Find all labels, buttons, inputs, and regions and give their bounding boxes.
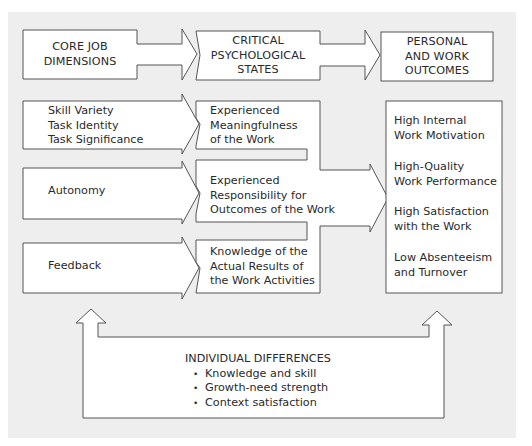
dimension-skill-task: Skill Variety Task Identity Task Signifi… (48, 104, 143, 148)
state-line: Knowledge of the (210, 245, 315, 260)
outcome-line: High Satisfaction (394, 205, 489, 220)
outcome-satisfaction: High Satisfaction with the Work (394, 205, 489, 234)
header-personal-work-outcomes: PERSONAL AND WORK OUTCOMES (381, 35, 493, 79)
outcome-line: with the Work (394, 220, 489, 235)
header-core-job-dimensions: CORE JOB DIMENSIONS (23, 40, 137, 69)
state-line: Experienced (210, 174, 335, 189)
state-line: Meaningfulness (210, 119, 298, 134)
header-line: PERSONAL (381, 35, 493, 50)
header-critical-psychological-states: CRITICAL PSYCHOLOGICAL STATES (196, 34, 320, 78)
moderator-item: Growth-need strength (191, 381, 331, 396)
outcome-absenteeism: Low Absenteeism and Turnover (394, 251, 492, 280)
state-line: Experienced (210, 104, 298, 119)
outcome-line: High-Quality (394, 160, 497, 175)
state-line: Responsibility for (210, 189, 335, 204)
state-responsibility: Experienced Responsibility for Outcomes … (210, 174, 335, 218)
outcome-line: and Turnover (394, 266, 492, 281)
header-line: CRITICAL (196, 34, 320, 49)
dimension-autonomy: Autonomy (48, 184, 105, 199)
state-line: the Work Activities (210, 274, 315, 289)
moderator-block: INDIVIDUAL DIFFERENCES Knowledge and ski… (185, 352, 331, 410)
outcome-motivation: High Internal Work Motivation (394, 114, 485, 143)
outcome-line: High Internal (394, 114, 485, 129)
state-line: of the Work (210, 133, 298, 148)
moderator-item: Knowledge and skill (191, 367, 331, 382)
outcome-line: Work Motivation (394, 129, 485, 144)
outcome-performance: High-Quality Work Performance (394, 160, 497, 189)
moderator-list: Knowledge and skill Growth-need strength… (191, 367, 331, 411)
dimension-feedback: Feedback (48, 259, 101, 274)
header-line: STATES (196, 63, 320, 78)
header-line: AND WORK (381, 50, 493, 65)
dimension-line: Task Significance (48, 133, 143, 148)
header-line: CORE JOB (23, 40, 137, 55)
outcome-line: Work Performance (394, 175, 497, 190)
state-knowledge-of-results: Knowledge of the Actual Results of the W… (210, 245, 315, 289)
moderator-item: Context satisfaction (191, 396, 331, 411)
state-line: Outcomes of the Work (210, 203, 335, 218)
moderator-title: INDIVIDUAL DIFFERENCES (185, 352, 331, 367)
dimension-line: Autonomy (48, 184, 105, 199)
header-line: OUTCOMES (381, 64, 493, 79)
outcome-line: Low Absenteeism (394, 251, 492, 266)
dimension-line: Task Identity (48, 119, 143, 134)
header-line: DIMENSIONS (23, 55, 137, 70)
dimension-line: Skill Variety (48, 104, 143, 119)
header-line: PSYCHOLOGICAL (196, 49, 320, 64)
dimension-line: Feedback (48, 259, 101, 274)
state-line: Actual Results of (210, 260, 315, 275)
state-meaningfulness: Experienced Meaningfulness of the Work (210, 104, 298, 148)
